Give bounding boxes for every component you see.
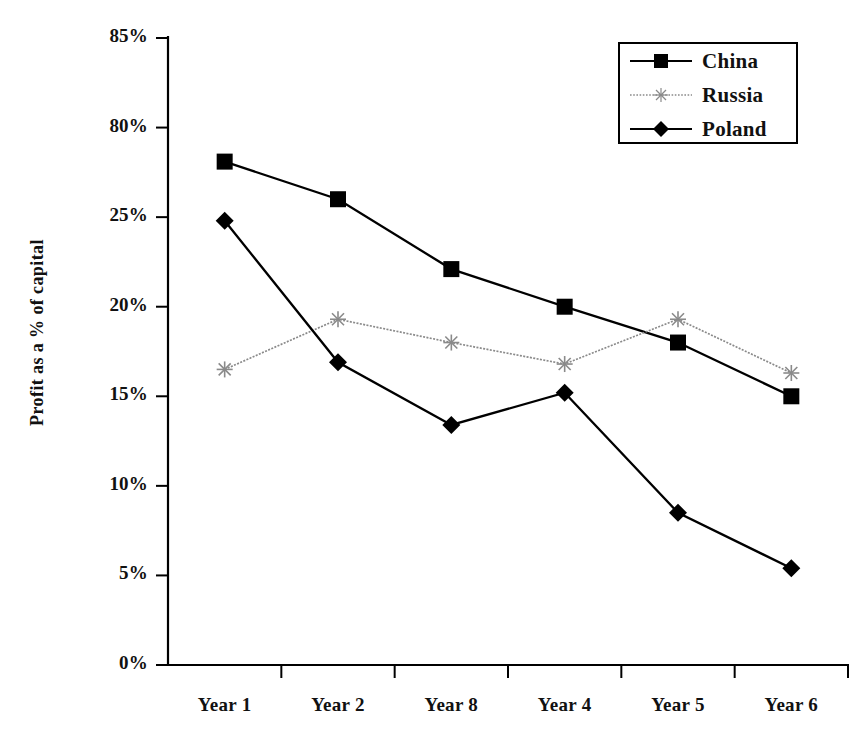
y-axis-title: Profit as a % of capital	[14, 0, 60, 665]
y-axis-tick-label: 80%	[60, 115, 148, 137]
data-point-marker	[217, 154, 233, 170]
x-axis-tick-label: Year 4	[505, 694, 625, 716]
x-axis-tick-label: Year 8	[391, 694, 511, 716]
y-axis-tick-label: 0%	[60, 652, 148, 674]
legend-item-russia: Russia	[620, 78, 796, 112]
data-point-marker	[783, 388, 799, 404]
legend-swatch-poland	[628, 119, 694, 139]
series-poland	[216, 212, 801, 578]
data-point-marker	[557, 356, 573, 372]
data-point-marker	[782, 559, 800, 577]
data-point-marker	[557, 299, 573, 315]
legend-label-china: China	[702, 49, 758, 74]
data-point-marker	[670, 311, 686, 327]
series-russia	[217, 311, 800, 381]
y-axis-title-text: Profit as a % of capital	[27, 239, 48, 426]
x-axis-ticks	[281, 665, 848, 678]
data-point-marker	[217, 361, 233, 377]
data-point-marker	[670, 335, 686, 351]
data-series-group	[216, 154, 801, 578]
data-point-marker	[443, 335, 459, 351]
x-axis-tick-label: Year 6	[731, 694, 851, 716]
series-china	[217, 154, 800, 405]
y-axis-tick-label: 5%	[60, 562, 148, 584]
y-axis-tick-label: 25%	[60, 204, 148, 226]
line-chart: Profit as a % of capital 85%80%25%20%15%…	[0, 0, 863, 737]
data-point-marker	[330, 311, 346, 327]
data-point-marker	[783, 365, 799, 381]
legend-item-poland: Poland	[620, 112, 796, 146]
data-point-marker	[330, 191, 346, 207]
data-point-marker	[442, 416, 460, 434]
y-axis-tick-label: 20%	[60, 294, 148, 316]
x-axis-tick-label: Year 2	[278, 694, 398, 716]
y-axis-tick-label: 15%	[60, 383, 148, 405]
legend: China Russia	[618, 42, 798, 144]
legend-item-china: China	[620, 44, 796, 78]
legend-swatch-china	[628, 51, 694, 71]
series-line	[225, 162, 792, 397]
series-line	[225, 221, 792, 569]
legend-swatch-russia	[628, 85, 694, 105]
y-axis-tick-label: 10%	[60, 473, 148, 495]
y-axis-ticks	[156, 38, 168, 665]
y-axis-tick-label: 85%	[60, 25, 148, 47]
x-axis-tick-label: Year 5	[618, 694, 738, 716]
data-point-marker	[443, 261, 459, 277]
legend-label-poland: Poland	[702, 117, 767, 142]
legend-label-russia: Russia	[702, 83, 763, 108]
x-axis-tick-label: Year 1	[165, 694, 285, 716]
